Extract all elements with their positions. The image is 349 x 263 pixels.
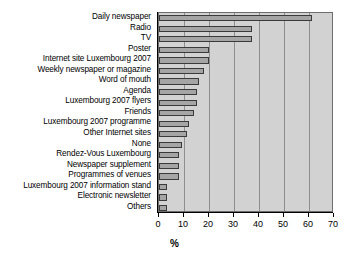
category-label: Radio — [0, 23, 155, 34]
tick-mark — [283, 213, 284, 217]
bar-row — [159, 97, 332, 108]
category-label: TV — [0, 33, 155, 44]
bar — [159, 205, 167, 211]
category-label: Other Internet sites — [0, 128, 155, 139]
bar — [159, 15, 312, 21]
bar — [159, 100, 197, 106]
tick-mark — [158, 213, 159, 217]
bar — [159, 78, 199, 84]
y-axis-line — [157, 12, 158, 213]
bar — [159, 110, 194, 116]
category-label: Luxembourg 2007 programme — [0, 117, 155, 128]
bar-row — [159, 192, 332, 203]
category-label: Luxembourg 2007 flyers — [0, 96, 155, 107]
bar — [159, 142, 182, 148]
bar-row — [159, 129, 332, 140]
bar-row — [159, 55, 332, 66]
tick-label: 20 — [196, 219, 220, 229]
category-label: Programmes of venues — [0, 170, 155, 181]
bar — [159, 152, 179, 158]
bar-row — [159, 108, 332, 119]
category-label: Poster — [0, 44, 155, 55]
tick-mark — [183, 213, 184, 217]
tick-mark — [208, 213, 209, 217]
bar-row — [159, 161, 332, 172]
bar-series — [159, 13, 332, 211]
category-label: None — [0, 139, 155, 150]
category-label: Newspaper supplement — [0, 160, 155, 171]
bar-row — [159, 140, 332, 151]
bar-row — [159, 150, 332, 161]
bar-row — [159, 34, 332, 45]
x-axis-title: % — [0, 238, 349, 249]
tick-label: 60 — [296, 219, 320, 229]
bar-row — [159, 171, 332, 182]
bar-row — [159, 182, 332, 193]
tick-mark — [333, 213, 334, 217]
category-label: Word of mouth — [0, 75, 155, 86]
category-label: Rendez-Vous Luxembourg — [0, 149, 155, 160]
bar — [159, 194, 167, 200]
bar — [159, 89, 197, 95]
bar — [159, 131, 187, 137]
category-label: Weekly newspaper or magazine — [0, 65, 155, 76]
category-label: Others — [0, 202, 155, 213]
bar — [159, 184, 167, 190]
bar — [159, 121, 189, 127]
category-label: Electronic newsletter — [0, 191, 155, 202]
plot-area — [158, 12, 333, 212]
bar — [159, 163, 179, 169]
tick-label: 10 — [171, 219, 195, 229]
tick-label: 0 — [146, 219, 170, 229]
bar — [159, 173, 179, 179]
bar-row — [159, 13, 332, 24]
category-label: Agenda — [0, 86, 155, 97]
tick-label: 50 — [271, 219, 295, 229]
bar-row — [159, 87, 332, 98]
bar — [159, 36, 252, 42]
tick-label: 70 — [321, 219, 345, 229]
tick-mark — [258, 213, 259, 217]
bar-row — [159, 45, 332, 56]
tick-mark — [308, 213, 309, 217]
bar — [159, 68, 204, 74]
tick-mark — [233, 213, 234, 217]
bar-row — [159, 66, 332, 77]
category-label-column: Daily newspaperRadioTVPosterInternet sit… — [0, 12, 155, 212]
category-label: Luxembourg 2007 information stand — [0, 181, 155, 192]
bar — [159, 57, 209, 63]
tick-label: 40 — [246, 219, 270, 229]
bar — [159, 26, 252, 32]
bar-chart: Daily newspaperRadioTVPosterInternet sit… — [0, 0, 349, 263]
tick-label: 30 — [221, 219, 245, 229]
bar — [159, 47, 209, 53]
bar-row — [159, 76, 332, 87]
category-label: Friends — [0, 107, 155, 118]
bar-row — [159, 118, 332, 129]
x-axis-line — [158, 212, 333, 213]
category-label: Internet site Luxembourg 2007 — [0, 54, 155, 65]
category-label: Daily newspaper — [0, 12, 155, 23]
bar-row — [159, 24, 332, 35]
